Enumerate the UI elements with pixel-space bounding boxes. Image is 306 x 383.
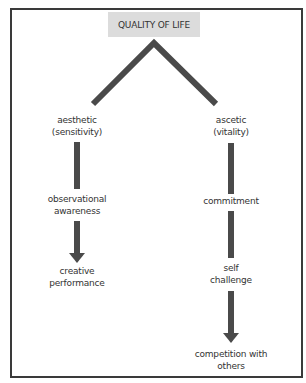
connector-bar-commitment-to-self-challenge [228, 211, 234, 258]
connector-lines [0, 0, 306, 383]
node-ascetic: ascetic (vitality) [171, 114, 291, 138]
root-node-label: QUALITY OF LIFE [118, 20, 190, 30]
node-competition-line2: others [171, 360, 291, 372]
node-ascetic-line2: (vitality) [171, 126, 291, 138]
node-self-challenge-line2: challenge [171, 274, 291, 286]
root-branch-lines [93, 43, 216, 104]
root-node-quality-of-life: QUALITY OF LIFE [108, 12, 200, 37]
node-creative-performance: creative performance [17, 265, 137, 289]
node-self-challenge-line1: self [171, 262, 291, 274]
arrow-self-challenge-to-competition [223, 291, 239, 343]
node-creative-line1: creative [17, 265, 137, 277]
node-ascetic-line1: ascetic [171, 114, 291, 126]
node-observational-line1: observational [17, 193, 137, 205]
node-competition-line1: competition with [171, 348, 291, 360]
node-commitment: commitment [171, 195, 291, 207]
node-observational-line2: awareness [17, 205, 137, 217]
node-commitment-line1: commitment [171, 195, 291, 207]
node-aesthetic: aesthetic (sensitivity) [17, 114, 137, 138]
node-self-challenge: self challenge [171, 262, 291, 286]
connector-bar-aesthetic-to-observational [74, 142, 80, 189]
node-aesthetic-line2: (sensitivity) [17, 126, 137, 138]
node-aesthetic-line1: aesthetic [17, 114, 137, 126]
node-observational-awareness: observational awareness [17, 193, 137, 217]
node-creative-line2: performance [17, 277, 137, 289]
arrow-observational-to-creative [69, 221, 85, 263]
node-competition-with-others: competition with others [171, 348, 291, 372]
connector-bar-ascetic-to-commitment [228, 143, 234, 194]
